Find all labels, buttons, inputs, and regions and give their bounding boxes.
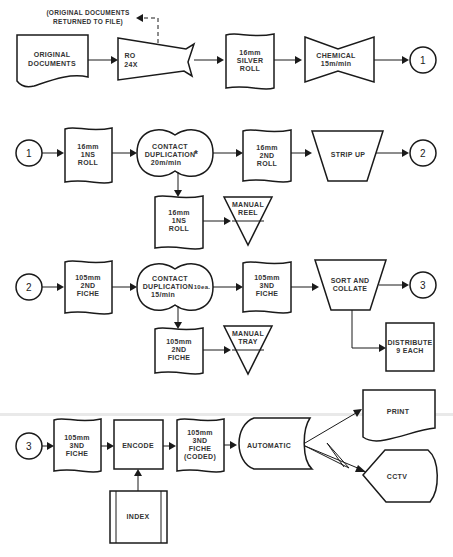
connector-label: 1 — [26, 148, 32, 159]
node-contact-duplication-15: CONTACT DUPLICATION 15/min 10ea. — [137, 264, 213, 311]
node-manual-reel: MANUAL REEL — [224, 197, 272, 245]
connector-2-out: 2 — [410, 140, 436, 166]
label: COLLATE — [333, 285, 368, 292]
label: 105mm — [166, 338, 192, 345]
label: REEL — [238, 209, 258, 216]
label: DOCUMENTS — [28, 60, 76, 67]
node-cctv: CCTV — [363, 450, 437, 502]
node-16mm-1ns-roll: 16mm 1NS ROLL — [65, 128, 112, 183]
label: DUPLICATION — [143, 283, 194, 290]
label: 20m/min — [151, 159, 182, 166]
label: 1NS — [172, 217, 187, 224]
label: INDEX — [127, 513, 150, 520]
arrow-head — [402, 149, 409, 157]
label: CONTACT — [152, 143, 188, 150]
arrow-head — [305, 149, 312, 157]
label: 2ND — [172, 346, 187, 353]
label: PRINT — [387, 408, 410, 415]
arrow-head — [57, 283, 64, 291]
connector-1-in: 1 — [16, 140, 42, 166]
arrow-head — [355, 465, 366, 472]
arrow-head — [217, 56, 224, 64]
node-encode: ENCODE — [114, 420, 163, 469]
connector-label: 3 — [420, 280, 426, 291]
arrow-head — [130, 149, 137, 157]
label: 105mm — [254, 274, 280, 281]
label: ROLL — [240, 65, 261, 72]
arrow-head — [169, 442, 176, 450]
label: DUPLICATION — [145, 151, 196, 158]
label: MANUAL — [232, 201, 265, 208]
node-ro-camera: RO 24X — [118, 38, 194, 80]
label: ENCODE — [122, 442, 154, 449]
arrow-head — [174, 322, 182, 329]
arrow-head — [134, 469, 142, 476]
arrow-head — [107, 442, 114, 450]
connector-3-out: 3 — [410, 272, 436, 298]
node-105mm-3nd-fiche-coded: 105mm 3ND FICHE (CODED) — [177, 419, 224, 472]
arrow-head — [136, 14, 143, 22]
arrow-head — [236, 283, 243, 291]
asterisk-mark: * — [194, 149, 198, 160]
label: CONTACT — [152, 275, 188, 282]
arrow-head — [130, 283, 137, 291]
arrow-head — [379, 344, 386, 352]
arrow-head — [312, 283, 319, 291]
label: 16mm — [168, 209, 189, 216]
node-16mm-silver-roll: 16mm SILVER ROLL — [226, 34, 274, 89]
connector-1-out: 1 — [410, 47, 436, 73]
arrow-head — [402, 281, 409, 289]
label: AUTOMATIC — [247, 442, 291, 449]
arrow-head — [111, 56, 118, 64]
node-print: PRINT — [363, 390, 435, 441]
note-label: RETURNED TO FILE) — [53, 18, 123, 26]
label: 16mm — [239, 49, 260, 56]
label: (CODED) — [184, 453, 216, 461]
label: RO — [124, 52, 135, 59]
node-distribute: DISTRIBUTE 9 EACH — [386, 323, 434, 371]
connector-3-in: 3 — [16, 433, 42, 459]
connector-label: 3 — [26, 441, 32, 452]
connector-2-in: 2 — [16, 274, 42, 300]
node-manual-tray: MANUAL TRAY — [224, 326, 272, 374]
arrow-head — [224, 346, 231, 354]
node-16mm-1ns-roll-copy: 16mm 1NS ROLL — [155, 196, 203, 249]
arrow-head — [224, 217, 231, 225]
arrow-head — [47, 442, 54, 450]
arrow-head — [174, 190, 182, 197]
label: 2ND — [81, 282, 96, 289]
label: DISTRIBUTE — [388, 339, 433, 346]
label: 2ND — [260, 152, 275, 159]
arrow-head — [236, 149, 243, 157]
node-105mm-3nd-fiche: 105mm 3ND FICHE — [243, 262, 291, 313]
connector-label: 2 — [420, 148, 426, 159]
flowchart: ORIGINAL DOCUMENTS RO 24X (ORIGINAL DOCU… — [0, 0, 453, 557]
label: TRAY — [238, 338, 258, 345]
node-original-documents: ORIGINAL DOCUMENTS — [17, 35, 88, 87]
node-chemical: CHEMICAL 15m/min — [305, 37, 374, 82]
label: ORIGINAL — [34, 51, 71, 58]
label: 3ND — [70, 442, 85, 449]
node-105mm-3nd-fiche-r4: 105mm 3ND FICHE — [54, 419, 101, 472]
label: 3ND — [260, 282, 275, 289]
label: 1NS — [81, 151, 96, 158]
node-16mm-2nd-roll: 16mm 2ND ROLL — [243, 130, 291, 182]
node-strip-up: STRIP UP — [312, 131, 383, 181]
label: 24X — [124, 61, 137, 68]
arrow-head — [57, 149, 64, 157]
note-label: (ORIGINAL DOCUMENTS — [46, 9, 130, 17]
label: ROLL — [169, 225, 190, 232]
label: 3ND — [193, 437, 208, 444]
label: CCTV — [387, 473, 407, 480]
connector-label: 2 — [26, 282, 32, 293]
label: FICHE — [189, 445, 212, 452]
label: 16mm — [256, 144, 277, 151]
label: 105mm — [75, 274, 101, 281]
label: FICHE — [168, 354, 191, 361]
label: FICHE — [66, 450, 89, 457]
node-automatic: AUTOMATIC — [239, 418, 312, 469]
label: STRIP UP — [331, 151, 366, 158]
arrow-head — [295, 56, 302, 64]
label: 105mm — [187, 429, 213, 436]
node-index: INDEX — [110, 491, 167, 543]
